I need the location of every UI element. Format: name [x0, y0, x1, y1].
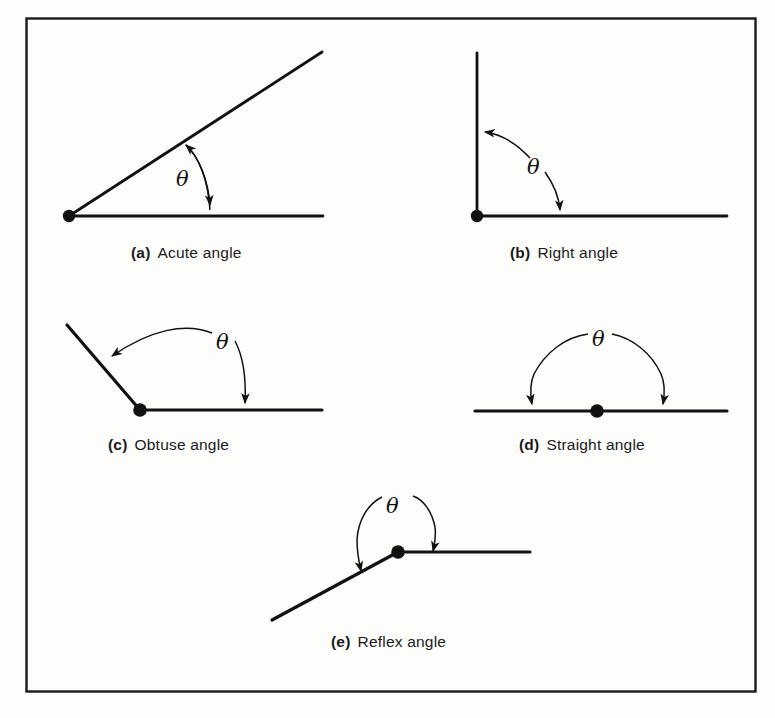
- obtuse-angle-arc-to-horizontal: [235, 341, 245, 403]
- caption-tag-a: (a): [131, 244, 151, 261]
- caption-straight-angle: (d)Straight angle: [519, 436, 645, 454]
- acute-vertex-dot: [63, 210, 75, 222]
- panel-reflex-angle: [272, 496, 530, 620]
- straight-angle-arc-left: [531, 334, 588, 404]
- reflex-angle-arc-to-slanted: [357, 497, 382, 571]
- right-vertex-dot: [471, 210, 483, 222]
- caption-text-a: Acute angle: [158, 244, 242, 261]
- theta-label-straight: θ: [592, 327, 605, 351]
- caption-text-d: Straight angle: [546, 436, 644, 453]
- reflex-vertex-dot: [391, 545, 405, 559]
- caption-tag-c: (c): [108, 436, 128, 453]
- theta-label-reflex: θ: [386, 494, 399, 518]
- figure-canvas: [0, 0, 775, 718]
- acute-ray-slanted: [69, 52, 322, 216]
- panel-obtuse-angle: [67, 325, 322, 417]
- reflex-ray-slanted: [272, 552, 398, 620]
- caption-right-angle: (b)Right angle: [510, 244, 618, 262]
- panel-right-angle: [471, 53, 727, 222]
- right-angle-arc-to-vertical: [485, 132, 530, 158]
- theta-label-right: θ: [527, 155, 540, 179]
- caption-tag-e: (e): [331, 633, 351, 650]
- obtuse-angle-arc-to-slanted: [112, 328, 212, 356]
- panel-acute-angle: [63, 52, 323, 222]
- straight-angle-arc-right: [612, 334, 664, 404]
- acute-angle-arc-upper: [186, 145, 210, 210]
- caption-text-e: Reflex angle: [358, 633, 447, 650]
- caption-tag-b: (b): [510, 244, 530, 261]
- caption-text-c: Obtuse angle: [135, 436, 230, 453]
- theta-label-obtuse: θ: [216, 330, 229, 354]
- caption-tag-d: (d): [519, 436, 539, 453]
- caption-text-b: Right angle: [537, 244, 618, 261]
- acute-angle-arc-lower: [186, 145, 210, 205]
- caption-acute-angle: (a)Acute angle: [131, 244, 242, 262]
- caption-obtuse-angle: (c)Obtuse angle: [108, 436, 229, 454]
- reflex-angle-arc-to-horizontal: [413, 496, 435, 551]
- right-angle-arc-to-horizontal: [545, 172, 560, 210]
- obtuse-ray-slanted: [67, 325, 140, 410]
- caption-reflex-angle: (e)Reflex angle: [331, 633, 446, 651]
- angle-types-figure: θ θ θ θ θ (a)Acute angle (b)Right angle …: [0, 0, 775, 718]
- straight-vertex-dot: [590, 404, 604, 418]
- theta-label-acute: θ: [176, 167, 189, 191]
- obtuse-vertex-dot: [133, 403, 147, 417]
- figure-border: [27, 19, 756, 692]
